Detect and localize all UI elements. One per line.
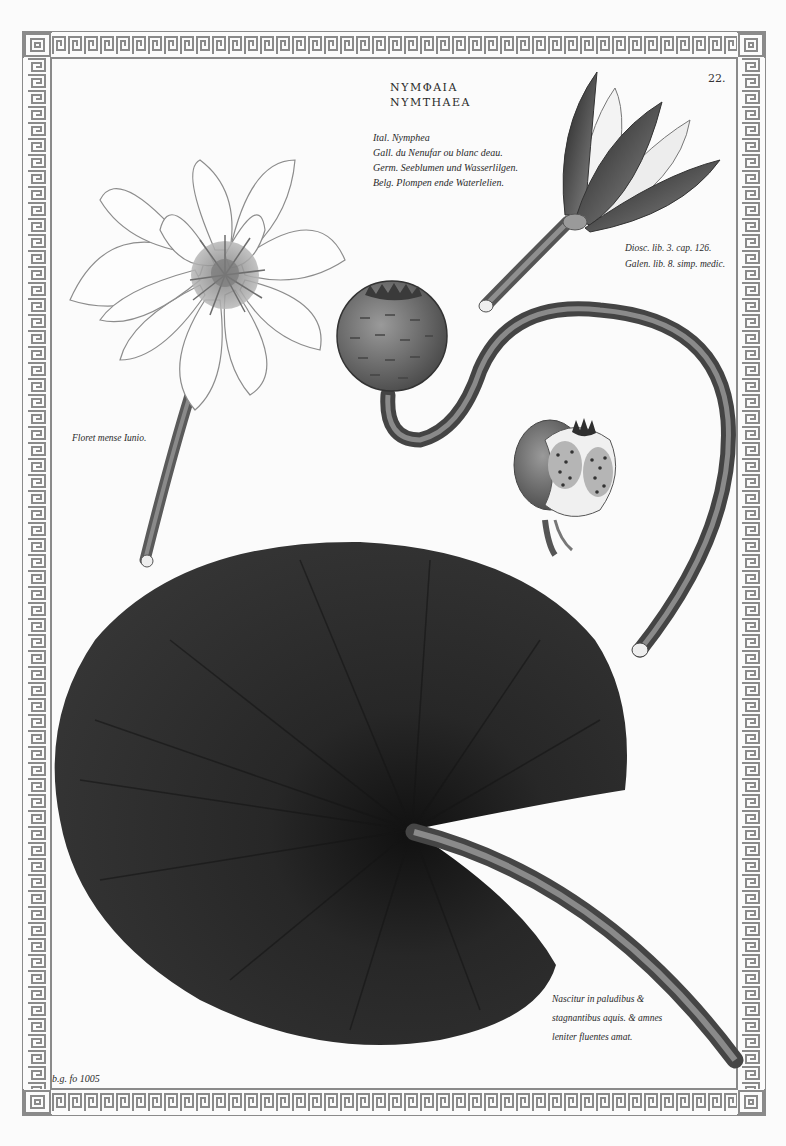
title-greek: ΝΥΜΦΑΙΑ [390, 80, 471, 95]
plate-title: ΝΥΜΦΑΙΑ NYMTHAEA [390, 80, 471, 110]
name-german: Germ. Seeblumen und Wasserlilgen. [373, 160, 518, 175]
folio-signature: b.g. fo 1005 [52, 1073, 100, 1084]
name-italian: Ital. Nymphea [373, 130, 518, 145]
classical-references: Diosc. lib. 3. cap. 126. Galen. lib. 8. … [625, 240, 725, 272]
bloom-note: Floret mense Iunio. [72, 433, 146, 443]
name-dutch: Belg. Plompen ende Waterlelien. [373, 175, 518, 190]
title-latin: NYMTHAEA [390, 95, 471, 110]
vernacular-names: Ital. Nymphea Gall. du Nenufar ou blanc … [373, 130, 518, 190]
habitat-line-1: Nascitur in paludibus & [552, 990, 662, 1009]
habitat-line-3: leniter fluentes amat. [552, 1028, 662, 1047]
habitat-note: Nascitur in paludibus & stagnantibus aqu… [552, 990, 662, 1047]
reference-galen: Galen. lib. 8. simp. medic. [625, 256, 725, 272]
habitat-line-2: stagnantibus aquis. & amnes [552, 1009, 662, 1028]
page-number: 22. [708, 72, 726, 85]
name-french: Gall. du Nenufar ou blanc deau. [373, 145, 518, 160]
reference-dioscorides: Diosc. lib. 3. cap. 126. [625, 240, 725, 256]
